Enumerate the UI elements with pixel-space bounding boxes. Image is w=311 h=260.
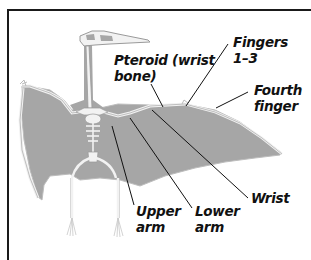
label-lower-arm: Lower arm [195, 203, 240, 235]
label-upper-line1: Upper [136, 203, 181, 219]
wing-membrane [21, 86, 282, 200]
label-upper-line2: arm [136, 219, 181, 235]
fourth-finger-leader [216, 92, 248, 108]
label-wrist: Wrist [251, 190, 289, 206]
label-pteroid-line2: bone) [114, 68, 215, 84]
right-foot [114, 218, 123, 237]
pteroid-leader [151, 84, 163, 107]
label-fourth-line2: finger [254, 98, 302, 114]
label-wrist-text: Wrist [251, 190, 289, 206]
label-fingers-1-3: Fingers 1–3 [233, 34, 288, 66]
label-pteroid-line1: Pteroid (wrist [114, 52, 215, 68]
label-fingers-line2: 1–3 [233, 50, 288, 66]
label-fingers-line1: Fingers [233, 34, 288, 50]
label-pteroid: Pteroid (wrist bone) [114, 52, 215, 84]
label-lower-line2: arm [195, 219, 240, 235]
label-lower-line1: Lower [195, 203, 240, 219]
left-foot [67, 218, 76, 236]
label-upper-arm: Upper arm [136, 203, 181, 235]
label-fourth-finger: Fourth finger [254, 82, 302, 114]
label-fourth-line1: Fourth [254, 82, 302, 98]
skull-crest-opening [86, 34, 95, 40]
